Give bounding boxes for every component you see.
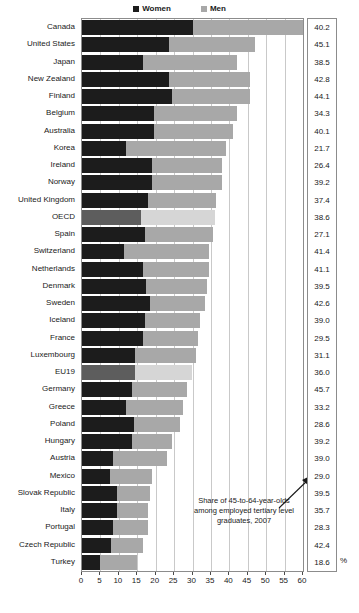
bar-segment-women bbox=[82, 124, 154, 139]
bar-row bbox=[82, 124, 233, 139]
bar-segment-women bbox=[82, 365, 135, 380]
bar-segment-men bbox=[110, 469, 152, 484]
bar-segment-men bbox=[154, 124, 233, 139]
x-tick-label: 50 bbox=[255, 576, 275, 585]
bar-segment-men bbox=[150, 296, 205, 311]
annotation-line-3: graduates, 2007 bbox=[186, 516, 302, 526]
bar-row bbox=[82, 555, 137, 570]
category-label: Mexico bbox=[0, 471, 75, 480]
bar-segment-women bbox=[82, 555, 100, 570]
value-cell: 39.0 bbox=[308, 454, 336, 463]
category-label: Sweden bbox=[0, 298, 75, 307]
bar-segment-men bbox=[169, 72, 250, 87]
bar-row bbox=[82, 400, 183, 415]
x-tick-mark bbox=[192, 572, 193, 575]
category-label: EU19 bbox=[0, 367, 75, 376]
bar-segment-women bbox=[82, 193, 148, 208]
category-label: Spain bbox=[0, 229, 75, 238]
bar-segment-men bbox=[111, 538, 142, 553]
bar-segment-women bbox=[82, 417, 134, 432]
bar-segment-women bbox=[82, 20, 193, 35]
bar-row bbox=[82, 382, 187, 397]
value-cell: 27.1 bbox=[308, 230, 336, 239]
x-tick-label: 10 bbox=[108, 576, 128, 585]
square-swatch-icon bbox=[201, 6, 207, 12]
bar-segment-men bbox=[113, 451, 166, 466]
x-tick-mark bbox=[284, 572, 285, 575]
x-tick-mark bbox=[81, 572, 82, 575]
bar-segment-men bbox=[152, 158, 222, 173]
value-cell: 38.5 bbox=[308, 58, 336, 67]
bar-segment-women bbox=[82, 262, 143, 277]
bar-segment-men bbox=[169, 37, 256, 52]
bar-segment-women bbox=[82, 158, 152, 173]
bar-row bbox=[82, 417, 180, 432]
bar-row bbox=[82, 296, 205, 311]
legend-label-men: Men bbox=[210, 5, 226, 13]
value-cell: 38.6 bbox=[308, 213, 336, 222]
bar-segment-women bbox=[82, 400, 126, 415]
category-label: Netherlands bbox=[0, 264, 75, 273]
bar-row bbox=[82, 313, 200, 328]
percent-symbol: % bbox=[340, 556, 347, 565]
x-tick-label: 40 bbox=[218, 576, 238, 585]
bar-segment-men bbox=[117, 486, 150, 501]
category-label: Czech Republic bbox=[0, 540, 75, 549]
value-cell: 36.0 bbox=[308, 368, 336, 377]
bar-segment-men bbox=[148, 193, 216, 208]
x-tick-label: 20 bbox=[145, 576, 165, 585]
category-label: Norway bbox=[0, 177, 75, 186]
category-label: Denmark bbox=[0, 281, 75, 290]
bar-segment-women bbox=[82, 434, 132, 449]
bar-segment-men bbox=[132, 382, 187, 397]
bar-row bbox=[82, 279, 207, 294]
bar-segment-women bbox=[82, 538, 111, 553]
x-tick-mark bbox=[302, 572, 303, 575]
value-cell: 37.4 bbox=[308, 196, 336, 205]
gridline bbox=[266, 19, 267, 571]
bar-segment-women bbox=[82, 331, 143, 346]
bar-row bbox=[82, 20, 303, 35]
x-tick-label: 15 bbox=[126, 576, 146, 585]
value-cell: 45.1 bbox=[308, 40, 336, 49]
x-tick-mark bbox=[247, 572, 248, 575]
value-cell: 29.5 bbox=[308, 334, 336, 343]
value-cell: 39.0 bbox=[308, 316, 336, 325]
x-tick-label: 0 bbox=[71, 576, 91, 585]
bar-row bbox=[82, 141, 226, 156]
category-label: Slovak Republic bbox=[0, 488, 75, 497]
bar-row bbox=[82, 486, 150, 501]
bar-segment-women bbox=[82, 451, 113, 466]
value-cell: 29.0 bbox=[308, 472, 336, 481]
bar-segment-men bbox=[143, 331, 198, 346]
bar-row bbox=[82, 175, 222, 190]
bar-segment-women bbox=[82, 210, 141, 225]
bar-row bbox=[82, 262, 209, 277]
category-label: New Zealand bbox=[0, 74, 75, 83]
bar-row bbox=[82, 210, 215, 225]
bar-row bbox=[82, 106, 237, 121]
bar-row bbox=[82, 520, 148, 535]
category-label: Belgium bbox=[0, 108, 75, 117]
x-tick-mark bbox=[228, 572, 229, 575]
bar-row bbox=[82, 89, 250, 104]
category-label: Hungary bbox=[0, 436, 75, 445]
value-cell: 39.5 bbox=[308, 282, 336, 291]
bar-segment-women bbox=[82, 55, 143, 70]
category-label: OECD bbox=[0, 212, 75, 221]
bar-segment-women bbox=[82, 141, 126, 156]
category-label: Ireland bbox=[0, 160, 75, 169]
bar-segment-men bbox=[126, 141, 225, 156]
category-label: Greece bbox=[0, 402, 75, 411]
category-label: Turkey bbox=[0, 557, 75, 566]
value-cell: 42.8 bbox=[308, 75, 336, 84]
bar-row bbox=[82, 55, 237, 70]
x-tick-mark bbox=[265, 572, 266, 575]
category-axis-labels: CanadaUnited StatesJapanNew ZealandFinla… bbox=[0, 18, 78, 572]
bar-segment-women bbox=[82, 313, 145, 328]
bar-row bbox=[82, 227, 213, 242]
value-cell: 42.4 bbox=[308, 541, 336, 550]
x-tick-label: 35 bbox=[200, 576, 220, 585]
annotation-line-2: among employed tertiary level bbox=[186, 506, 302, 516]
gridline bbox=[285, 19, 286, 571]
